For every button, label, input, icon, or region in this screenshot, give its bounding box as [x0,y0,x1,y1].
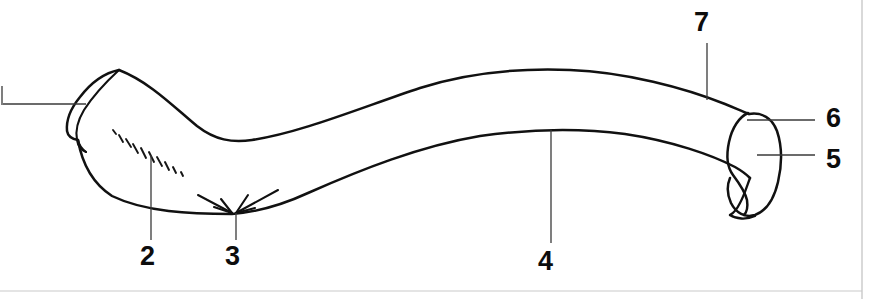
callout-number-7: 7 [694,9,709,36]
bone-distal-lateral-lobe [728,114,781,216]
bone-drawing-svg [0,0,883,299]
callout-number-4: 4 [538,248,553,275]
bone-sternal-facet-line [76,70,119,152]
anatomical-figure: 2 3 4 5 6 7 [0,0,883,299]
bone-inferior-border [78,130,750,214]
bone-superior-border [119,70,749,142]
callout-number-2: 2 [140,243,155,270]
callout-number-6: 6 [826,105,841,132]
callout-number-5: 5 [826,146,841,173]
hatch-group [113,130,183,176]
bone-proximal-end-outline [67,70,119,140]
arrow-group-callout-3 [198,190,278,213]
callout-number-3: 3 [225,243,240,270]
